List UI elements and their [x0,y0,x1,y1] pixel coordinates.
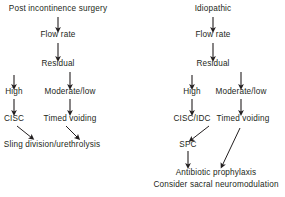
node-left-residual: Residual [41,59,74,69]
node-idiopathic: Idiopathic [195,4,232,14]
node-left-moderate-low: Moderate/low [44,87,95,97]
connector-l-timed-to-l-sling [66,126,78,138]
node-sling-division-urethrolysis: Sling division/urethrolysis [4,140,100,150]
flowchart-canvas: Post incontinence surgery Flow rate Resi… [0,0,285,197]
connector-r-ciscidc-to-r-spc [191,126,209,140]
node-spc: SPC [179,140,196,150]
node-right-timed-voiding: Timed voiding [217,114,270,124]
node-left-flow-rate: Flow rate [40,30,75,40]
node-right-high: High [183,87,201,97]
node-post-incontinence-surgery: Post incontinence surgery [9,4,107,14]
node-antibiotic-prophylaxis: Antibiotic prophylaxis [176,168,257,178]
connector-r-timed-to-r-antibiotic [222,128,240,166]
node-right-moderate-low: Moderate/low [215,87,266,97]
node-cisc-idc: CISC/IDC [173,114,210,124]
node-left-high: High [5,87,23,97]
node-right-residual: Residual [196,59,229,69]
node-right-flow-rate: Flow rate [195,30,230,40]
node-consider-sacral-neuromodulation: Consider sacral neuromodulation [153,180,278,190]
node-left-cisc: CISC [4,114,24,124]
node-left-timed-voiding: Timed voiding [44,114,97,124]
connector-l-cisc-to-l-sling [17,126,32,138]
